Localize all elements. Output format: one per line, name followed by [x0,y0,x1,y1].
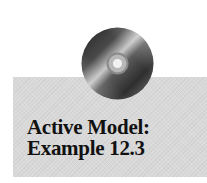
title-line-1: Active Model: [27,117,150,138]
active-model-title[interactable]: Active Model: Example 12.3 [27,117,150,159]
title-line-2: Example 12.3 [27,138,150,159]
cd-disc-icon [81,27,154,100]
